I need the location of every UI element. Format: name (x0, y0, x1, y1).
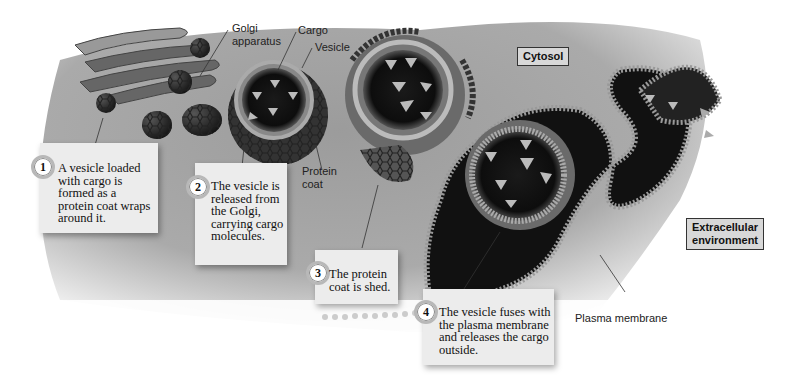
extracellular-line2: environment (692, 234, 758, 247)
step-2-number: 2 (186, 175, 210, 199)
cargo-label: Cargo (298, 24, 328, 37)
golgi-apparatus-label: Golgi apparatus (232, 22, 281, 48)
step-1-text: A vesicle loaded with cargo is formed as… (58, 162, 154, 225)
vesicle-label: Vesicle (315, 41, 350, 54)
step-3-box: 3 The protein coat is shed. (315, 250, 398, 304)
step-4-box: 4 The vesicle fuses with the plasma memb… (423, 289, 554, 365)
golgi-label-line2: apparatus (232, 35, 281, 48)
step-4-text: The vesicle fuses with the plasma membra… (439, 306, 553, 356)
extracellular-line1: Extracellular (692, 221, 758, 234)
protein-coat-line2: coat (302, 178, 337, 191)
plasma-membrane-label: Plasma membrane (575, 312, 667, 325)
protein-coat-label: Protein coat (302, 165, 337, 191)
golgi-label-line1: Golgi (232, 22, 281, 35)
cytosol-label: Cytosol (517, 47, 569, 66)
step-4-number: 4 (414, 300, 438, 324)
extracellular-environment-label: Extracellular environment (686, 218, 764, 250)
step-1-number: 1 (31, 155, 55, 179)
step-1-box: 1 A vesicle loaded with cargo is formed … (40, 143, 158, 233)
step-3-text: The protein coat is shed. (329, 268, 397, 293)
step-2-text: The vesicle is released from the Golgi, … (211, 180, 287, 243)
protein-coat-line1: Protein (302, 165, 337, 178)
step-2-box: 2 The vesicle is released from the Golgi… (195, 163, 287, 265)
exocytosis-diagram: Golgi apparatus Cargo Vesicle Protein co… (0, 0, 788, 379)
step-3-number: 3 (306, 261, 330, 285)
